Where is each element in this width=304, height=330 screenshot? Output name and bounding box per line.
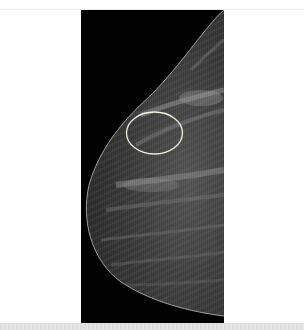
- bottom-strip: [0, 323, 304, 330]
- mammogram-image: [81, 10, 224, 323]
